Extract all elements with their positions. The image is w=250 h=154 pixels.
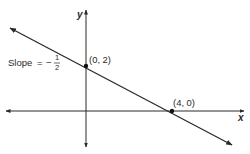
slope-prefix: Slope — [8, 57, 32, 68]
point-y-intercept — [84, 64, 88, 68]
point-x-intercept — [170, 109, 174, 113]
slope-annotation: Slope = − 1 2 — [8, 53, 60, 72]
point-label-x-intercept: (4, 0) — [173, 98, 195, 108]
x-axis-label: x — [237, 112, 244, 123]
graph-line — [10, 28, 232, 145]
coordinate-plane: y x (0, 2) (4, 0) Slope = − 1 2 — [0, 0, 250, 154]
point-label-y-intercept: (0, 2) — [89, 55, 111, 65]
slope-numerator: 1 — [55, 53, 59, 62]
slope-denominator: 2 — [55, 63, 59, 72]
slope-sign: − — [46, 57, 52, 68]
y-axis-label: y — [76, 9, 83, 20]
slope-equals: = — [37, 57, 43, 68]
